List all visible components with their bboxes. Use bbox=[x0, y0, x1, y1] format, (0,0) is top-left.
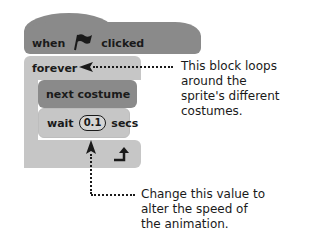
next-costume-label: next costume bbox=[46, 88, 130, 101]
value-pointer-line-vertical bbox=[90, 154, 92, 194]
arrow-left-icon bbox=[79, 62, 93, 72]
wait-post-label: secs bbox=[111, 117, 138, 130]
arrow-up-icon bbox=[86, 140, 96, 154]
next-costume-block[interactable]: next costume bbox=[38, 80, 137, 108]
loop-annotation: This block loops around the sprite's dif… bbox=[181, 59, 280, 119]
forever-label: forever bbox=[32, 62, 77, 75]
hat-post-label: clicked bbox=[101, 37, 144, 50]
loop-arrow-icon bbox=[112, 146, 130, 162]
wait-block[interactable]: wait 0.1 secs bbox=[38, 108, 130, 138]
flag-icon bbox=[73, 33, 93, 54]
hat-pre-label: when bbox=[32, 37, 65, 50]
when-flag-clicked-block[interactable]: when clicked bbox=[24, 22, 201, 54]
loop-pointer-line bbox=[93, 66, 173, 68]
wait-pre-label: wait bbox=[47, 117, 74, 130]
value-pointer-line-horizontal bbox=[91, 194, 135, 196]
wait-value-input[interactable]: 0.1 bbox=[79, 115, 107, 131]
forever-c-bottom bbox=[24, 140, 141, 168]
value-annotation: Change this value to alter the speed of … bbox=[141, 187, 265, 232]
